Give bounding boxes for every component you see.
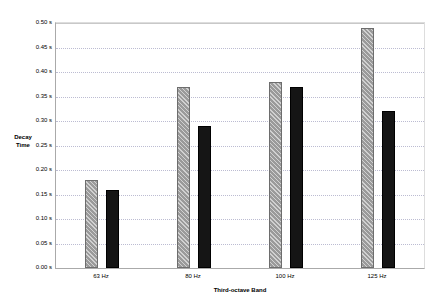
y-axis-tick-label: 0.45 s bbox=[14, 44, 52, 50]
y-axis-tick-label: 0.20 s bbox=[14, 166, 52, 172]
bar[interactable] bbox=[198, 126, 211, 268]
bar[interactable] bbox=[85, 180, 98, 268]
x-axis-title: Third-octave Band bbox=[55, 287, 425, 293]
bar[interactable] bbox=[106, 190, 119, 268]
y-axis-tick-label: 0.40 s bbox=[14, 68, 52, 74]
x-axis-tick-label: 80 Hz bbox=[185, 273, 201, 279]
bar[interactable] bbox=[177, 87, 190, 268]
bar[interactable] bbox=[269, 82, 282, 268]
x-axis-tick-label: 63 Hz bbox=[93, 273, 109, 279]
y-axis-tick-label: 0.10 s bbox=[14, 215, 52, 221]
bar-group bbox=[177, 23, 211, 268]
y-axis-tick-label: 0.50 s bbox=[14, 19, 52, 25]
bar[interactable] bbox=[382, 111, 395, 268]
plot-area bbox=[55, 22, 425, 269]
bar-group bbox=[269, 23, 303, 268]
y-axis-tick-label: 0.35 s bbox=[14, 93, 52, 99]
y-axis-tick-label: 0.25 s bbox=[14, 142, 52, 148]
bar-chart: Decay Time 0.00 s0.05 s0.10 s0.15 s0.20 … bbox=[0, 0, 448, 305]
y-axis-tick-label: 0.00 s bbox=[14, 264, 52, 270]
x-axis-tick-label: 125 Hz bbox=[367, 273, 386, 279]
y-axis-tick-label: 0.05 s bbox=[14, 240, 52, 246]
bar[interactable] bbox=[361, 28, 374, 268]
x-axis-tick-label: 100 Hz bbox=[275, 273, 294, 279]
y-axis-tick-label: 0.30 s bbox=[14, 117, 52, 123]
bar-group bbox=[85, 23, 119, 268]
bar[interactable] bbox=[290, 87, 303, 268]
x-axis-tick-labels: 63 Hz80 Hz100 Hz125 Hz bbox=[55, 273, 425, 285]
bar-group bbox=[361, 23, 395, 268]
y-axis-tick-label: 0.15 s bbox=[14, 191, 52, 197]
y-axis-tick-labels: 0.00 s0.05 s0.10 s0.15 s0.20 s0.25 s0.30… bbox=[14, 0, 52, 305]
